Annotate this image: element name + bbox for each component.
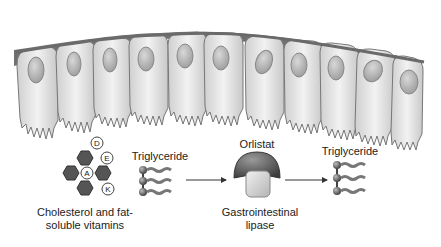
- epithelial-cell: [129, 34, 168, 126]
- cholesterol-hexagon: [77, 151, 93, 165]
- epithelial-cell: [168, 32, 207, 126]
- epithelial-cell: [391, 56, 423, 150]
- vitamin-d-label: D: [93, 137, 101, 150]
- epithelial-cells: [16, 32, 424, 150]
- cholesterol-hexagon: [77, 181, 93, 195]
- lipase-label-line1: Gastrointestinal: [215, 206, 305, 219]
- orlistat-mechanism-diagram: D E A K Cholesterol and fat- soluble vit…: [0, 0, 441, 247]
- cholesterol-hexagon: [95, 166, 111, 180]
- lipase-label-line2: lipase: [215, 219, 305, 232]
- triglyceride-left-label: Triglyceride: [130, 150, 190, 163]
- cholesterol-hexagon: [63, 166, 79, 180]
- epithelial-cell: [245, 36, 284, 130]
- epithelial-cell: [93, 38, 132, 128]
- triglyceride-right-label: Triglyceride: [320, 145, 380, 158]
- epithelial-cell: [56, 41, 96, 133]
- vitamin-e-label: E: [103, 152, 111, 165]
- triglyceride-left-icon: [139, 166, 171, 196]
- epithelial-cell: [320, 43, 359, 140]
- epithelial-cell: [284, 40, 323, 134]
- orlistat-label: Orlistat: [232, 138, 282, 151]
- vitamin-k-label: K: [104, 183, 112, 196]
- triglyceride-right-icon: [333, 161, 365, 195]
- cholesterol-label-line1: Cholesterol and fat-: [30, 206, 140, 219]
- vitamin-a-label: A: [83, 167, 91, 180]
- epithelial-cell: [204, 33, 243, 126]
- gastrointestinal-lipase-icon: [246, 171, 270, 197]
- epithelial-cell: [355, 49, 395, 146]
- cholesterol-label-line2: soluble vitamins: [30, 219, 140, 232]
- epithelial-cell: [17, 47, 58, 139]
